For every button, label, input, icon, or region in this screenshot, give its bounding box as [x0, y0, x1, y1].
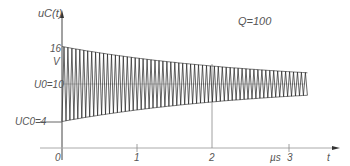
q-factor-label: Q=100: [238, 16, 271, 27]
x-tick-0: 0: [55, 152, 61, 163]
y-top-value: 16: [50, 43, 61, 54]
y-unit: V: [53, 56, 60, 67]
x-tick-2: 2: [209, 152, 215, 163]
u0-label: U0=10: [34, 79, 64, 90]
x-axis-arrow-icon: [332, 146, 340, 150]
x-tick-3: 3: [287, 152, 293, 163]
x-tick-1: 1: [134, 152, 140, 163]
uc0-label: UC0=4: [15, 116, 46, 127]
x-unit: µs: [270, 152, 281, 163]
y-axis-label: uC(t): [38, 8, 62, 19]
x-axis-label: t: [327, 152, 330, 163]
